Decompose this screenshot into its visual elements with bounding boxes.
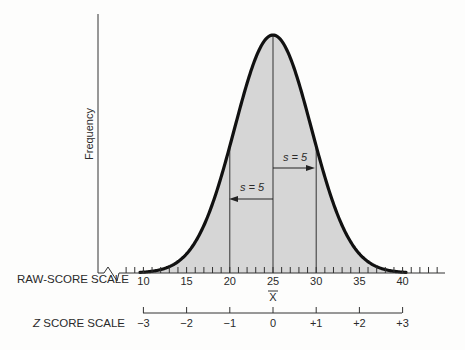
raw-tick-label: 10 [137,275,149,287]
raw-tick-label: 40 [396,275,408,287]
sd-label-left: s = 5 [240,181,265,193]
raw-tick-label: 25 [267,275,279,287]
z-tick-label: 0 [270,317,276,329]
z-tick-label: +3 [396,317,409,329]
y-axis-label: Frequency [83,108,95,160]
raw-tick-label: 35 [353,275,365,287]
raw-score-scale-label: RAW-SCORE SCALE [17,273,129,285]
z-tick-label: −1 [224,317,237,329]
z-score-scale-label: Z SCORE SCALE [32,317,125,329]
raw-score-labels: 10152025303540 [137,275,408,287]
z-score-labels: −3−2−10+1+2+3 [137,317,409,329]
raw-tick-label: 20 [224,275,236,287]
normal-curve-diagram: Frequency 10152025303540 RAW-SCORE SCALE… [0,0,465,350]
sd-label-right: s = 5 [283,151,308,163]
z-tick-label: +1 [310,317,323,329]
z-tick-label: −2 [180,317,193,329]
z-tick-label: +2 [353,317,366,329]
z-score-ticks [143,307,402,313]
z-tick-label: −3 [137,317,150,329]
raw-tick-label: 30 [310,275,322,287]
mean-symbol: X [269,291,277,303]
raw-tick-label: 15 [180,275,192,287]
